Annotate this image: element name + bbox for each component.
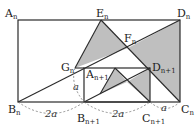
- dim-label-bn1-cn1: 2a: [111, 108, 124, 119]
- label-an: An: [4, 7, 18, 21]
- dim-label-cn1-cn: a: [161, 102, 167, 113]
- label-an1: An+1: [85, 68, 109, 82]
- label-fn: Fn: [124, 32, 137, 46]
- label-dn: Dn: [177, 7, 191, 21]
- label-en: En: [96, 7, 109, 21]
- shaded-triangle-inner-2: [127, 68, 150, 102]
- dim-label-gn-bn1: a: [73, 81, 79, 92]
- geometry-diagram: An Dn En Fn Gn An+1 Dn+1 Bn Bn+1 Cn+1 Cn…: [0, 0, 195, 128]
- shaded-triangle-en-gn-fn: [75, 20, 128, 68]
- label-bn1: Bn+1: [77, 112, 100, 126]
- label-gn: Gn: [61, 61, 75, 75]
- label-cn1: Cn+1: [142, 112, 165, 126]
- label-cn: Cn: [181, 103, 194, 117]
- dim-label-bn-bn1: 2a: [44, 108, 57, 119]
- label-bn: Bn: [8, 103, 21, 117]
